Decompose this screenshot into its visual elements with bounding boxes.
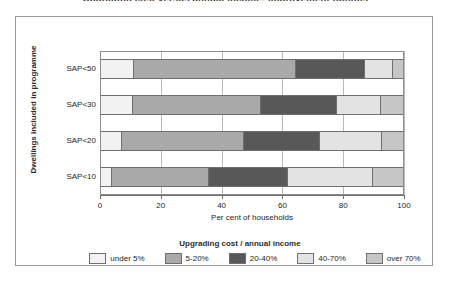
x-tick-80 [343, 195, 344, 199]
bar-segment [287, 167, 372, 187]
bar-segment [111, 167, 208, 187]
bar-segment [381, 131, 404, 151]
bar-segment [380, 95, 404, 115]
x-axis-title: Per cent of households [100, 213, 404, 222]
plot-area [100, 51, 404, 195]
bar-segment [260, 95, 336, 115]
legend-item[interactable]: 20-40% [229, 253, 278, 264]
bar-row [100, 167, 404, 187]
legend-label: over 70% [387, 254, 421, 263]
legend-items: under 5%5-20%20-40%40-70%over 70% [31, 253, 449, 264]
x-tick-100 [404, 195, 405, 199]
x-tick-label-0: 0 [85, 201, 115, 210]
legend-swatch [89, 253, 106, 264]
legend-swatch [165, 253, 182, 264]
legend-swatch [366, 253, 383, 264]
bar-segment [121, 131, 243, 151]
bar-segment [392, 59, 404, 79]
figure-title: Upgrading cost versus annual income: imp… [0, 0, 451, 1]
legend-item[interactable]: under 5% [89, 253, 144, 264]
legend-label: under 5% [110, 254, 144, 263]
bar-segment [243, 131, 319, 151]
x-tick-label-60: 60 [267, 201, 297, 210]
legend-item[interactable]: over 70% [366, 253, 421, 264]
x-tick-20 [161, 195, 162, 199]
legend-label: 40-70% [318, 254, 346, 263]
x-tick-60 [282, 195, 283, 199]
bar-row [100, 95, 404, 115]
x-tick-label-40: 40 [207, 201, 237, 210]
bar-row [100, 131, 404, 151]
bar-segment [372, 167, 404, 187]
bar-segment [100, 131, 121, 151]
y-tick-label-SAPlt20: SAP<20 [26, 136, 96, 145]
legend-label: 20-40% [250, 254, 278, 263]
bar-segment [295, 59, 365, 79]
bar-segment [319, 131, 381, 151]
x-tick-label-80: 80 [328, 201, 358, 210]
bar-row [100, 59, 404, 79]
x-tick-40 [222, 195, 223, 199]
bar-segment [364, 59, 391, 79]
y-axis-tick-labels: SAP<50SAP<30SAP<20SAP<10 [22, 51, 96, 195]
legend-title: Upgrading cost / annual income [31, 239, 449, 248]
legend-item[interactable]: 5-20% [165, 253, 209, 264]
bar-segment [208, 167, 287, 187]
bar-segment [100, 95, 132, 115]
bar-segment [133, 59, 294, 79]
legend: Upgrading cost / annual income under 5%5… [31, 239, 449, 264]
bar-segment [132, 95, 260, 115]
legend-swatch [229, 253, 246, 264]
bar-segment [100, 59, 133, 79]
legend-item[interactable]: 40-70% [297, 253, 346, 264]
gridline-100 [404, 51, 405, 195]
bar-segment [336, 95, 380, 115]
x-tick-label-100: 100 [389, 201, 419, 210]
legend-swatch [297, 253, 314, 264]
y-tick-label-SAPlt50: SAP<50 [26, 64, 96, 73]
chart-frame: Dwellings included in programme SAP<50SA… [15, 16, 433, 266]
x-tick-0 [100, 195, 101, 199]
y-tick-label-SAPlt10: SAP<10 [26, 172, 96, 181]
x-axis-line [100, 195, 404, 196]
bar-segment [100, 167, 111, 187]
legend-label: 5-20% [186, 254, 209, 263]
x-tick-label-20: 20 [146, 201, 176, 210]
y-tick-label-SAPlt30: SAP<30 [26, 100, 96, 109]
